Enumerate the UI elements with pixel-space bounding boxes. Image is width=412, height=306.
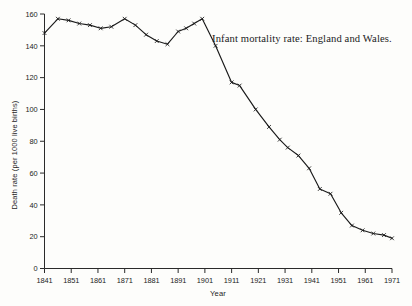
x-tick-label: 1941 bbox=[304, 276, 320, 285]
x-tick-label: 1901 bbox=[197, 276, 213, 285]
x-tick-label: 1861 bbox=[90, 276, 106, 285]
infant-mortality-chart: 020406080100120140160 184118511861187118… bbox=[0, 0, 412, 306]
x-tick-label: 1881 bbox=[143, 276, 159, 285]
y-tick-label: 80 bbox=[29, 137, 37, 146]
x-tick-label: 1851 bbox=[63, 276, 79, 285]
x-tick-label: 1951 bbox=[331, 276, 347, 285]
y-tick-label: 20 bbox=[29, 232, 37, 241]
x-tick-label: 1971 bbox=[384, 276, 400, 285]
y-axis-title: Death rate (per 1000 live births) bbox=[10, 101, 19, 210]
y-tick-label: 40 bbox=[29, 201, 37, 210]
y-tick-label: 120 bbox=[25, 73, 37, 82]
x-tick-label: 1921 bbox=[250, 276, 266, 285]
y-tick-label: 100 bbox=[25, 105, 37, 114]
x-tick-label: 1961 bbox=[357, 276, 373, 285]
x-axis-title: Year bbox=[210, 289, 226, 298]
x-tick-label: 1891 bbox=[170, 276, 186, 285]
y-tick-label: 60 bbox=[29, 169, 37, 178]
chart-background bbox=[0, 0, 412, 306]
x-tick-label: 1911 bbox=[224, 276, 240, 285]
y-tick-label: 0 bbox=[33, 264, 37, 273]
x-tick-label: 1931 bbox=[277, 276, 293, 285]
y-tick-label: 140 bbox=[25, 42, 37, 51]
x-tick-label: 1841 bbox=[36, 276, 52, 285]
x-tick-label: 1871 bbox=[117, 276, 133, 285]
y-tick-label: 160 bbox=[25, 10, 37, 19]
chart-title: Infant mortality rate: England and Wales… bbox=[212, 33, 392, 44]
